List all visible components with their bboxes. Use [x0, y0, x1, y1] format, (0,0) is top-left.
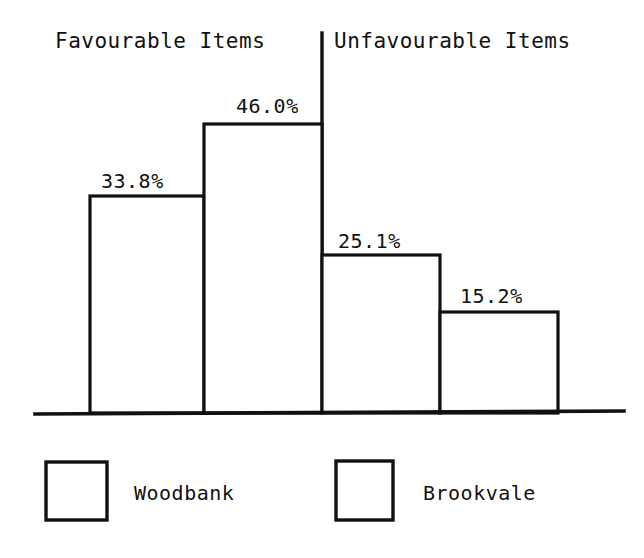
bar-woodbank-favourable	[90, 196, 204, 413]
bar-outline	[440, 312, 558, 413]
bar-brookvale-favourable	[204, 124, 322, 413]
bar-brookvale-unfavourable	[440, 312, 558, 413]
legend-label-brookvale: Brookvale	[423, 481, 536, 505]
bar-chart-figure: Favourable Items Unfavourable Items 33.	[0, 0, 644, 558]
chart-canvas: Favourable Items Unfavourable Items 33.	[0, 0, 644, 558]
value-label-bar3: 25.1%	[338, 229, 401, 253]
bar-woodbank-unfavourable	[322, 255, 440, 413]
legend-label-woodbank: Woodbank	[134, 481, 234, 505]
value-label-bar1: 33.8%	[101, 169, 164, 193]
legend-swatch-woodbank	[46, 462, 107, 520]
legend: Woodbank Brookvale	[46, 461, 536, 520]
group-heading-unfavourable: Unfavourable Items	[334, 29, 571, 53]
bar-outline	[90, 196, 204, 413]
legend-item-woodbank: Woodbank	[46, 462, 234, 520]
legend-swatch-brookvale	[336, 461, 393, 520]
bar-outline	[204, 124, 322, 413]
value-label-bar2: 46.0%	[236, 94, 299, 118]
bar-outline	[322, 255, 440, 413]
legend-item-brookvale: Brookvale	[336, 461, 536, 520]
group-heading-favourable: Favourable Items	[55, 29, 265, 53]
value-label-bar4: 15.2%	[460, 284, 523, 308]
